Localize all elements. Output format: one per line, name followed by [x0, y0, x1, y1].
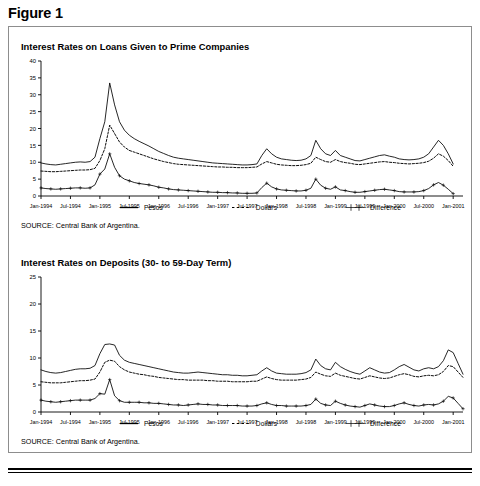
rule-thin [8, 472, 472, 473]
legend-item-pesos: Pesos [119, 419, 163, 428]
figure-page: Figure 1 Interest Rates on Loans Given t… [0, 0, 480, 486]
dotted-line-icon [231, 203, 251, 212]
plot-area-deposits: 0510152025Jan-1994Jul-1994Jan-1995Jul-19… [15, 273, 467, 438]
plot-area-loans: 0510152025303540Jan-1994Jul-1994Jan-1995… [15, 57, 467, 222]
legend-item-difference: Difference [345, 419, 401, 428]
svg-text:20: 20 [30, 126, 36, 132]
svg-text:Jul-2000: Jul-2000 [413, 419, 434, 425]
legend-item-pesos: Pesos [119, 203, 163, 212]
legend-deposits: PesosDollarsDifference [119, 419, 401, 428]
plus-marker-line-icon [345, 419, 365, 428]
svg-text:Jan-1994: Jan-1994 [30, 419, 52, 425]
legend-label: Difference [370, 204, 401, 211]
svg-text:10: 10 [30, 159, 36, 165]
solid-line-icon [119, 419, 139, 428]
svg-text:Jan-2001: Jan-2001 [442, 203, 464, 209]
legend-label: Difference [370, 420, 401, 427]
svg-text:40: 40 [30, 58, 36, 64]
solid-line-icon [119, 203, 139, 212]
svg-text:Jan-1994: Jan-1994 [30, 203, 52, 209]
bottom-rule [8, 468, 472, 473]
legend-item-difference: Difference [345, 203, 401, 212]
legend-loans: PesosDollarsDifference [119, 203, 401, 212]
chart-title-loans: Interest Rates on Loans Given to Prime C… [21, 41, 249, 52]
svg-text:5: 5 [33, 382, 36, 388]
chart-title-deposits: Interest Rates on Deposits (30- to 59-Da… [21, 257, 231, 268]
source-note-loans: SOURCE: Central Bank of Argentina. [21, 221, 140, 230]
svg-text:20: 20 [30, 301, 36, 307]
svg-text:Jul-2000: Jul-2000 [413, 203, 434, 209]
svg-text:0: 0 [33, 193, 36, 199]
legend-label: Pesos [144, 420, 163, 427]
svg-text:Jul-1994: Jul-1994 [60, 203, 81, 209]
svg-text:15: 15 [30, 143, 36, 149]
figure-box: Interest Rates on Loans Given to Prime C… [8, 26, 472, 453]
dotted-line-icon [231, 419, 251, 428]
svg-text:10: 10 [30, 355, 36, 361]
source-note-deposits: SOURCE: Central Bank of Argentina. [21, 437, 140, 446]
plus-marker-line-icon [345, 203, 365, 212]
legend-label: Dollars [256, 204, 277, 211]
svg-text:30: 30 [30, 92, 36, 98]
svg-text:0: 0 [33, 409, 36, 415]
svg-text:15: 15 [30, 328, 36, 334]
svg-text:Jan-2001: Jan-2001 [442, 419, 464, 425]
svg-text:Jan-1995: Jan-1995 [89, 419, 111, 425]
svg-text:Jan-1995: Jan-1995 [89, 203, 111, 209]
svg-text:Jul-1994: Jul-1994 [60, 419, 81, 425]
legend-label: Dollars [256, 420, 277, 427]
plot-svg-deposits: 0510152025Jan-1994Jul-1994Jan-1995Jul-19… [15, 273, 467, 438]
legend-item-dollars: Dollars [231, 203, 277, 212]
chart-panel-loans: Interest Rates on Loans Given to Prime C… [9, 27, 473, 239]
figure-label: Figure 1 [8, 5, 63, 21]
svg-text:5: 5 [33, 176, 36, 182]
svg-text:25: 25 [30, 109, 36, 115]
svg-text:35: 35 [30, 75, 36, 81]
svg-text:25: 25 [30, 274, 36, 280]
plot-svg-loans: 0510152025303540Jan-1994Jul-1994Jan-1995… [15, 57, 467, 222]
chart-panel-deposits: Interest Rates on Deposits (30- to 59-Da… [9, 239, 473, 454]
legend-label: Pesos [144, 204, 163, 211]
legend-item-dollars: Dollars [231, 419, 277, 428]
